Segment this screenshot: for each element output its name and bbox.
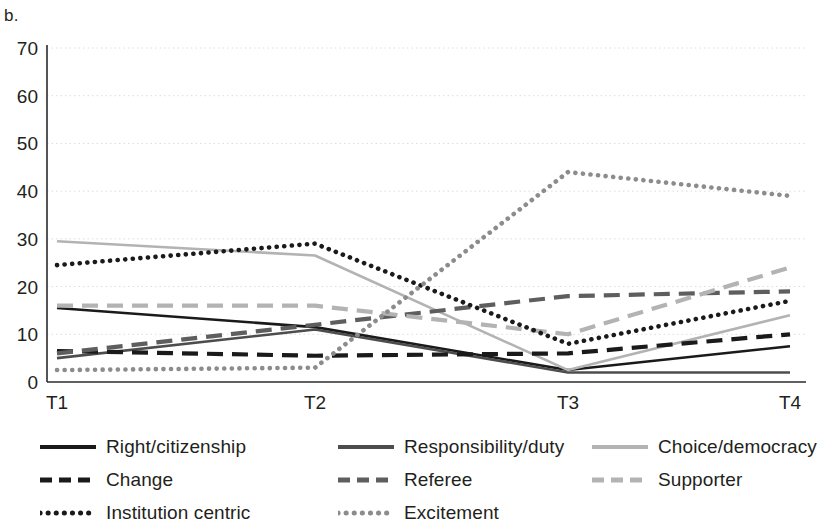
legend-swatch-icon bbox=[40, 473, 96, 487]
x-tick-labels: T1T2T3T4 bbox=[46, 392, 802, 413]
legend-item[interactable]: Change bbox=[40, 465, 173, 495]
y-tick-label: 0 bbox=[27, 372, 38, 393]
legend-item[interactable]: Excitement bbox=[338, 498, 499, 528]
x-tick-label: T3 bbox=[557, 392, 579, 413]
legend-label: Responsibility/duty bbox=[404, 436, 564, 458]
legend-label: Referee bbox=[404, 469, 472, 491]
y-tick-label: 60 bbox=[17, 86, 38, 107]
y-tick-label: 40 bbox=[17, 181, 38, 202]
legend-swatch-icon bbox=[338, 440, 394, 454]
legend-swatch-icon bbox=[338, 506, 394, 520]
y-tick-label: 10 bbox=[17, 324, 38, 345]
legend-item[interactable]: Choice/democracy bbox=[592, 432, 817, 462]
chart-legend: Right/citizenshipChangeInstitution centr… bbox=[0, 432, 815, 530]
x-tick-label: T1 bbox=[46, 392, 68, 413]
legend-label: Supporter bbox=[658, 469, 742, 491]
legend-label: Change bbox=[106, 469, 173, 491]
x-tick-label: T2 bbox=[304, 392, 326, 413]
legend-swatch-icon bbox=[592, 473, 648, 487]
legend-swatch-icon bbox=[40, 506, 96, 520]
gridlines bbox=[47, 48, 806, 334]
y-tick-label: 70 bbox=[17, 38, 38, 59]
y-tick-label: 20 bbox=[17, 277, 38, 298]
series-line bbox=[57, 308, 790, 370]
legend-label: Excitement bbox=[404, 502, 499, 524]
series-lines bbox=[57, 172, 790, 372]
y-tick-label: 30 bbox=[17, 229, 38, 250]
line-chart: 706050403020100 T1T2T3T4 bbox=[0, 0, 815, 425]
legend-swatch-icon bbox=[40, 440, 96, 454]
legend-item[interactable]: Responsibility/duty bbox=[338, 432, 564, 462]
legend-swatch-icon bbox=[592, 440, 648, 454]
legend-item[interactable]: Institution centric bbox=[40, 498, 250, 528]
y-tick-labels: 706050403020100 bbox=[17, 38, 38, 393]
chart-svg: 706050403020100 T1T2T3T4 bbox=[0, 0, 815, 425]
legend-item[interactable]: Right/citizenship bbox=[40, 432, 246, 462]
x-tick-label: T4 bbox=[779, 392, 802, 413]
y-tick-label: 50 bbox=[17, 133, 38, 154]
legend-label: Choice/democracy bbox=[658, 436, 817, 458]
legend-label: Institution centric bbox=[106, 502, 250, 524]
legend-item[interactable]: Supporter bbox=[592, 465, 742, 495]
series-line bbox=[57, 267, 790, 334]
legend-label: Right/citizenship bbox=[106, 436, 246, 458]
legend-swatch-icon bbox=[338, 473, 394, 487]
legend-item[interactable]: Referee bbox=[338, 465, 472, 495]
